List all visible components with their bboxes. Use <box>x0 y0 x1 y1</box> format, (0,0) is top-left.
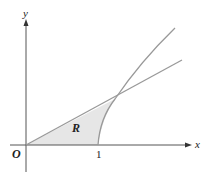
diagram-canvas <box>0 0 210 175</box>
y-axis-arrow-icon <box>24 19 29 26</box>
straight-line <box>26 60 182 145</box>
x-tick-1: 1 <box>96 149 102 160</box>
y-axis-label: y <box>23 8 28 19</box>
region-label: R <box>72 122 80 134</box>
curve <box>98 28 175 145</box>
x-axis-arrow-icon <box>185 143 192 148</box>
origin-label: O <box>12 148 21 160</box>
x-axis-label: x <box>195 139 200 150</box>
